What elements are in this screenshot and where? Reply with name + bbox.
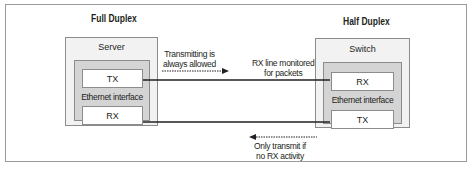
annotation-line: no RX activity bbox=[254, 151, 306, 161]
transmit-allowed-note: Transmitting is always allowed bbox=[163, 49, 216, 69]
annotation-line: Transmitting is bbox=[163, 49, 216, 59]
transmit-conditional-arrow-icon bbox=[249, 134, 317, 140]
annotation-line: always allowed bbox=[163, 59, 216, 69]
annotation-line: RX line monitored bbox=[252, 58, 314, 68]
only-transmit-note: Only transmit if no RX activity bbox=[254, 141, 306, 161]
annotation-line: Only transmit if bbox=[254, 141, 306, 151]
rx-monitored-note: RX line monitored for packets bbox=[252, 58, 314, 78]
connection-lines bbox=[0, 0, 475, 179]
annotation-line: for packets bbox=[252, 68, 314, 78]
